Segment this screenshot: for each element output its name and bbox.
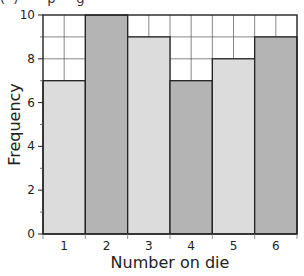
x-tick-label: 2 (103, 239, 111, 253)
y-axis-title: Frequency (5, 83, 24, 166)
y-tick-label: 6 (27, 96, 35, 110)
x-tick-label: 1 (60, 239, 68, 253)
y-tick-label: 4 (27, 139, 35, 153)
x-tick-label: 4 (187, 239, 195, 253)
y-tick-label: 2 (27, 183, 35, 197)
bar-1 (43, 81, 85, 234)
y-tick-label: 0 (27, 227, 35, 241)
bar-3 (128, 37, 170, 234)
x-tick-labels: 123456 (43, 234, 297, 253)
bar-6 (255, 37, 297, 234)
x-tick-label: 3 (145, 239, 153, 253)
y-tick-label: 10 (20, 8, 35, 22)
bar-4 (170, 81, 212, 234)
bar-5 (212, 59, 254, 234)
bar-2 (85, 15, 127, 234)
histogram-chart: 0246810 123456 Number on die Frequency (0, 0, 304, 276)
y-tick-label: 8 (27, 52, 35, 66)
x-tick-label: 6 (272, 239, 280, 253)
x-axis-title: Number on die (111, 253, 230, 272)
bars (43, 15, 297, 234)
x-tick-label: 5 (230, 239, 238, 253)
